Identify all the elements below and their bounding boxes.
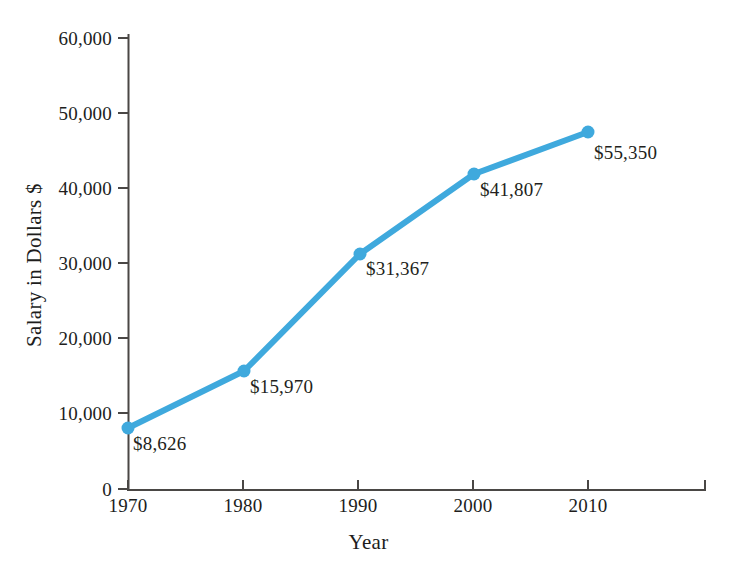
data-point-markers [122,126,595,435]
y-axis-title: Salary in Dollars $ [23,183,45,347]
point-value-label-2000: $41,807 [480,180,543,199]
y-axis-ticks [118,38,129,489]
y-tick-label-50000: 50,000 [16,104,112,123]
y-tick-label-10000: 10,000 [16,404,112,423]
y-tick-label-60000: 60,000 [16,29,112,48]
data-point-2010 [582,126,595,139]
x-tick-label-1990: 1990 [318,496,398,515]
x-tick-label-2010: 2010 [548,496,628,515]
x-tick-label-2000: 2000 [433,496,513,515]
point-value-label-2010: $55,350 [594,143,657,162]
data-point-2000 [468,168,481,181]
point-value-label-1990: $31,367 [366,259,429,278]
line-chart: 60,000 50,000 40,000 30,000 20,000 10,00… [0,0,737,571]
data-line-salary [128,132,588,428]
y-axis-title-wrapper: Salary in Dollars $ [14,130,54,400]
point-value-label-1980: $15,970 [250,377,313,396]
data-point-1990 [354,248,367,261]
point-value-label-1970: $8,626 [133,434,186,453]
x-axis-title: Year [0,531,737,553]
x-tick-label-1980: 1980 [203,496,283,515]
x-tick-label-1970: 1970 [88,496,168,515]
data-point-1980 [238,365,251,378]
